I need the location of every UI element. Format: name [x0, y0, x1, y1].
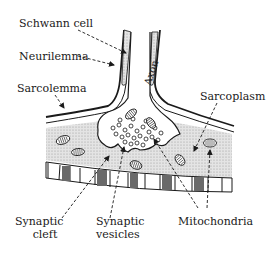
label-neurilemma: Neurilemma [19, 50, 88, 63]
label-synaptic-vesicles: Synaptic vesicles [96, 215, 145, 241]
label-synaptic-vesicles-line2: vesicles [96, 228, 145, 241]
label-synaptic-vesicles-line1: Synaptic [96, 215, 145, 228]
label-sarcoplasm: Sarcoplasm [200, 90, 265, 103]
label-synaptic-cleft-line1: Synaptic [15, 215, 63, 228]
label-sarcolemma: Sarcolemma [17, 82, 87, 95]
sarcolemma-membrane [46, 30, 124, 117]
label-synaptic-cleft: Synaptic cleft [15, 215, 63, 241]
label-mitochondria: Mitochondria [178, 215, 253, 228]
label-schwann-cell: Schwann cell [19, 17, 93, 30]
label-synaptic-cleft-line2: cleft [15, 228, 63, 241]
